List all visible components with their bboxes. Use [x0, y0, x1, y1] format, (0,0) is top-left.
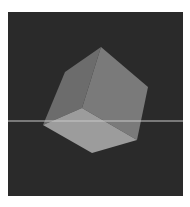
cube-scene	[0, 0, 190, 207]
